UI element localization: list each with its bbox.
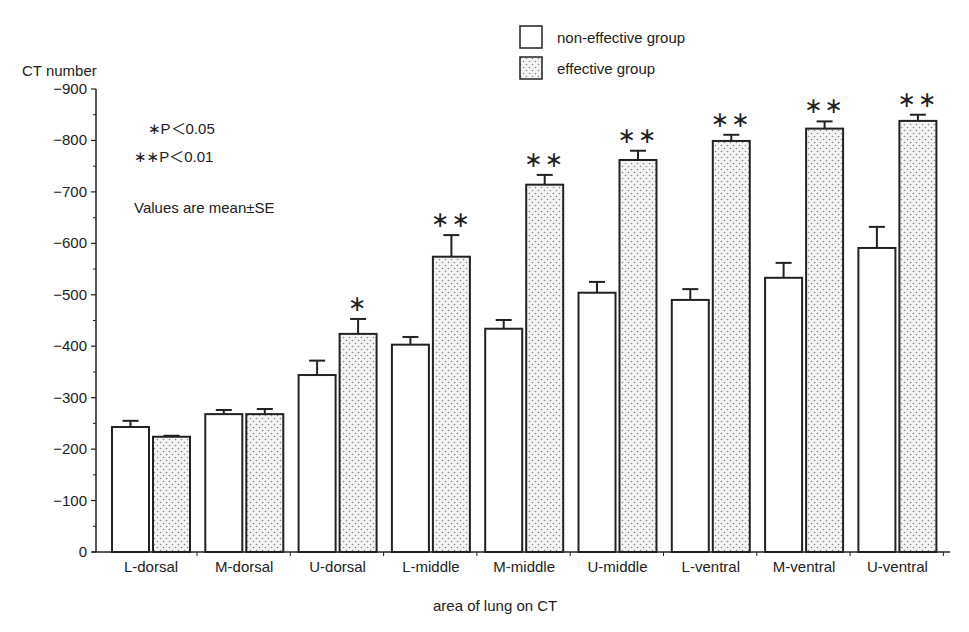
bar-effective bbox=[526, 185, 563, 552]
bar-non-effective bbox=[579, 293, 616, 552]
bar-effective bbox=[899, 121, 936, 552]
note-p01: ∗∗P＜0.01 bbox=[134, 145, 213, 166]
note-p05: ∗P＜0.05 bbox=[148, 117, 215, 138]
bar-non-effective bbox=[672, 300, 709, 552]
bar-effective bbox=[713, 141, 750, 552]
legend-label: non-effective group bbox=[557, 29, 685, 46]
significance-marker: ∗∗ bbox=[524, 147, 565, 172]
bar-non-effective bbox=[112, 427, 149, 552]
significance-marker: ∗ bbox=[348, 291, 368, 316]
bar-non-effective bbox=[765, 278, 802, 552]
y-tick-label: −700 bbox=[53, 183, 87, 200]
significance-marker: ∗∗ bbox=[897, 87, 938, 112]
y-tick-label: −400 bbox=[53, 337, 87, 354]
bar-effective bbox=[620, 160, 657, 552]
y-tick-label: −500 bbox=[53, 286, 87, 303]
y-axis: 0−100−200−300−400−500−600−700−800−900 bbox=[53, 80, 96, 560]
bar-non-effective bbox=[858, 248, 895, 552]
y-tick-label: 0 bbox=[79, 543, 87, 560]
bars: ∗∗∗∗∗∗∗∗∗∗∗∗∗ bbox=[112, 87, 938, 552]
bar-effective bbox=[340, 334, 377, 552]
y-tick-label: −200 bbox=[53, 440, 87, 457]
significance-marker: ∗∗ bbox=[804, 93, 845, 118]
x-tick-label: L-middle bbox=[402, 558, 460, 575]
x-axis-label: area of lung on CT bbox=[433, 597, 557, 614]
bar-effective bbox=[806, 129, 843, 552]
x-tick-label: L-ventral bbox=[682, 558, 740, 575]
y-tick-label: −800 bbox=[53, 131, 87, 148]
bar-chart: 0−100−200−300−400−500−600−700−800−900 L-… bbox=[0, 0, 969, 632]
bar-non-effective bbox=[205, 414, 242, 552]
legend-swatch-non-effective bbox=[520, 26, 542, 48]
bar-effective bbox=[433, 257, 470, 552]
x-axis: L-dorsalM-dorsalU-dorsalL-middleM-middle… bbox=[92, 552, 950, 575]
y-axis-label: CT number bbox=[22, 62, 97, 79]
y-tick-label: −900 bbox=[53, 80, 87, 97]
bar-non-effective bbox=[392, 345, 429, 552]
bar-non-effective bbox=[485, 329, 522, 552]
bar-effective bbox=[153, 437, 190, 552]
x-tick-label: L-dorsal bbox=[124, 558, 178, 575]
note-mean-se: Values are mean±SE bbox=[134, 199, 275, 216]
x-tick-label: M-dorsal bbox=[215, 558, 273, 575]
x-tick-label: M-middle bbox=[493, 558, 555, 575]
y-tick-label: −600 bbox=[53, 234, 87, 251]
bar-non-effective bbox=[299, 375, 336, 552]
bar-effective bbox=[246, 414, 283, 552]
x-tick-label: M-ventral bbox=[773, 558, 836, 575]
significance-marker: ∗∗ bbox=[711, 107, 752, 132]
significance-marker: ∗∗ bbox=[431, 207, 472, 232]
significance-marker: ∗∗ bbox=[618, 123, 659, 148]
legend: non-effective groupeffective group bbox=[520, 26, 685, 79]
y-tick-label: −300 bbox=[53, 389, 87, 406]
legend-swatch-effective bbox=[520, 57, 542, 79]
y-tick-label: −100 bbox=[53, 492, 87, 509]
x-tick-label: U-ventral bbox=[867, 558, 928, 575]
x-tick-label: U-dorsal bbox=[309, 558, 366, 575]
x-tick-label: U-middle bbox=[587, 558, 647, 575]
legend-label: effective group bbox=[557, 60, 655, 77]
